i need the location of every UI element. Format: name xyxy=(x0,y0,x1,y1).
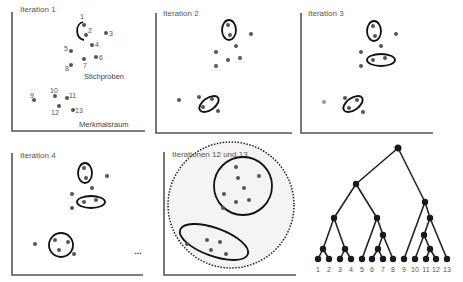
svg-text:6: 6 xyxy=(99,54,103,61)
axes xyxy=(156,13,292,133)
svg-text:11: 11 xyxy=(69,92,76,99)
svg-text:4: 4 xyxy=(349,266,353,273)
svg-text:3: 3 xyxy=(338,266,342,273)
panel-title: Iteration 2 xyxy=(163,9,199,18)
hierarchical-clustering-diagram: Iteration 1 1 2 3 4 5 6 7 8 9 xyxy=(0,0,463,282)
svg-text:11: 11 xyxy=(422,266,429,273)
svg-text:13: 13 xyxy=(443,266,451,273)
svg-text:13: 13 xyxy=(75,107,83,114)
svg-text:9: 9 xyxy=(402,266,406,273)
svg-text:7: 7 xyxy=(83,62,87,69)
dendrogram-leaf-labels: 1 2 3 4 5 6 7 8 9 10 11 12 13 xyxy=(316,266,451,273)
panel-iteration-3: Iteration 3 xyxy=(301,9,433,133)
svg-text:2: 2 xyxy=(88,27,92,34)
svg-text:12: 12 xyxy=(51,109,59,116)
panel-title: Iteration 3 xyxy=(308,9,344,18)
svg-text:1: 1 xyxy=(80,13,84,20)
svg-text:6: 6 xyxy=(370,266,374,273)
sample-points xyxy=(33,166,109,256)
svg-text:4: 4 xyxy=(95,41,99,48)
sample-points xyxy=(177,23,253,113)
svg-text:5: 5 xyxy=(64,45,68,52)
cluster-outline xyxy=(77,196,105,208)
sample-points xyxy=(322,24,398,114)
svg-text:3: 3 xyxy=(109,30,113,37)
cluster-outline xyxy=(78,163,92,183)
svg-text:5: 5 xyxy=(360,266,364,273)
cluster-outline xyxy=(49,233,73,257)
feature-space-label: Merkmalsraum xyxy=(79,120,129,129)
ellipsis: ... xyxy=(134,246,142,256)
svg-text:8: 8 xyxy=(65,65,69,72)
panel-iteration-1: Iteration 1 1 2 3 4 5 6 7 8 9 xyxy=(12,5,145,131)
panel-title: Iteration 4 xyxy=(20,151,56,160)
panel-iteration-4: Iteration 4 ... xyxy=(12,151,143,275)
svg-text:1: 1 xyxy=(316,266,320,273)
merged-cluster-outline xyxy=(168,142,294,268)
svg-text:7: 7 xyxy=(381,266,385,273)
svg-text:9: 9 xyxy=(30,92,34,99)
svg-text:8: 8 xyxy=(391,266,395,273)
panel-title: Iteration 1 xyxy=(20,5,56,14)
dendrogram: 1 2 3 4 5 6 7 8 9 10 11 12 13 xyxy=(315,145,451,274)
panel-iterations-12-13: Iterationen 12 und 13 xyxy=(164,142,296,275)
cluster-outline xyxy=(222,20,236,40)
svg-text:2: 2 xyxy=(327,266,331,273)
svg-text:12: 12 xyxy=(432,266,440,273)
svg-text:10: 10 xyxy=(411,266,419,273)
cluster-outline xyxy=(367,21,381,41)
panel-iteration-2: Iteration 2 xyxy=(156,9,292,133)
samples-label: Stichproben xyxy=(84,72,124,81)
svg-text:10: 10 xyxy=(50,87,58,94)
